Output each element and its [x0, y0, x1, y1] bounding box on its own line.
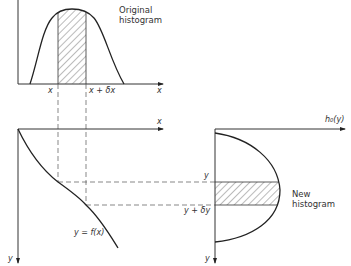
title-line1: New: [292, 189, 335, 199]
original-histogram-title: Original histogram: [119, 5, 162, 25]
tick-x-dx-label: x + δx: [89, 86, 115, 95]
right-y-axis-label: y: [205, 254, 210, 263]
top-x-axis-label: x: [157, 86, 162, 95]
tick-y-dy-label: y + δy: [184, 206, 210, 215]
tick-x-label: x: [48, 86, 53, 95]
curve-label: y = f(x): [74, 228, 104, 237]
bottom-x-axis-label: x: [157, 117, 162, 126]
title-line2: histogram: [119, 15, 162, 25]
h-axis-label: h₀(y): [325, 115, 344, 124]
bottom-y-axis-label: y: [8, 254, 13, 263]
title-line1: Original: [119, 5, 162, 15]
new-histogram-title: New histogram: [292, 189, 335, 209]
tick-y-label: y: [204, 171, 209, 180]
title-line2: histogram: [292, 199, 335, 209]
